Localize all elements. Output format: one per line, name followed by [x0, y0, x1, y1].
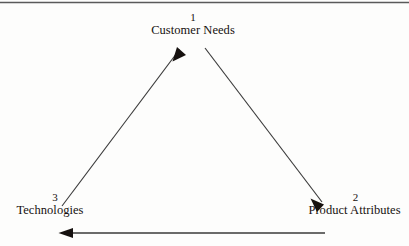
diagram-canvas: 1 Customer Needs 3 Technologies 2 Produc…	[0, 0, 409, 246]
node-product-attributes-number: 2	[302, 191, 409, 203]
node-customer-needs: 1 Customer Needs	[130, 11, 256, 37]
node-technologies-number: 3	[12, 191, 98, 203]
arrow-customer-needs-to-product-attributes	[205, 48, 324, 212]
node-product-attributes-label: Product Attributes	[300, 203, 409, 217]
node-technologies-label: Technologies	[2, 203, 98, 217]
node-customer-needs-label: Customer Needs	[130, 23, 256, 37]
arrow-product-attributes-to-technologies	[59, 228, 326, 238]
node-technologies: 3 Technologies	[2, 191, 98, 217]
arrow-technologies-to-customer-needs	[62, 47, 186, 206]
node-product-attributes: 2 Product Attributes	[300, 191, 409, 217]
node-customer-needs-number: 1	[130, 11, 256, 23]
